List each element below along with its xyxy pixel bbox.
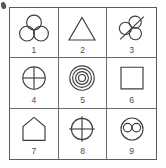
cell-number-label: 2: [80, 46, 85, 55]
cell-number-label: 7: [31, 147, 36, 156]
grid-cell-8[interactable]: 8: [59, 109, 108, 159]
grid-cell-2[interactable]: 2: [59, 8, 108, 58]
cell-number-label: 8: [80, 147, 85, 156]
grid-cell-5[interactable]: 5: [59, 58, 108, 108]
circle-with-cross-icon: [10, 60, 58, 96]
cell-number-label: 1: [31, 46, 36, 55]
triangle-icon: [59, 10, 107, 46]
crosshair-icon: [59, 111, 107, 147]
concentric-circles-icon: [59, 60, 107, 96]
grid-cell-1[interactable]: 1: [10, 8, 59, 58]
grid-cell-7[interactable]: 7: [10, 109, 59, 159]
cell-number-label: 3: [129, 46, 134, 55]
shape-grid: 1 2 3: [9, 7, 157, 160]
circle-with-two-circles-icon: [107, 111, 156, 147]
cell-number-label: 5: [80, 96, 85, 105]
three-circles-cluster-struck-icon: [107, 10, 156, 46]
cell-number-label: 4: [31, 96, 36, 105]
three-circles-cluster-icon: [10, 10, 58, 46]
grid-cell-6[interactable]: 6: [107, 58, 156, 108]
grid-cell-9[interactable]: 9: [107, 109, 156, 159]
square-icon: [107, 60, 156, 96]
cell-number-label: 6: [129, 96, 134, 105]
grid-cell-3[interactable]: 3: [107, 8, 156, 58]
house-pentagon-icon: [10, 111, 58, 147]
grid-cell-4[interactable]: 4: [10, 58, 59, 108]
cell-number-label: 9: [129, 147, 134, 156]
ink-speck-mark: [0, 1, 7, 9]
figure-grid-diagram: 1 2 3: [0, 0, 166, 168]
